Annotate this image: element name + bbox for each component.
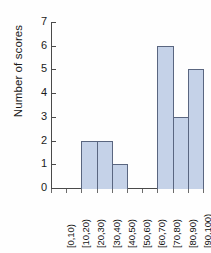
x-tick-label-5: [50,60) <box>140 188 154 248</box>
y-tick-mark <box>52 188 56 189</box>
y-tick-label: 2 <box>33 134 47 147</box>
y-tick-label: 7 <box>33 15 47 28</box>
x-tick-label-4: [40,50) <box>125 188 139 248</box>
y-tick-5: 5 <box>51 69 56 70</box>
bar-[30,40) <box>97 141 113 189</box>
x-tick-label-9: [90,100) <box>201 188 211 248</box>
x-tick-label-6: [60,70) <box>155 188 169 248</box>
y-tick-mark <box>52 22 56 23</box>
y-tick-mark <box>52 117 56 118</box>
y-tick-label: 1 <box>33 157 47 170</box>
y-tick-mark <box>52 141 56 142</box>
x-tick-label-2: [20,30) <box>94 188 108 248</box>
bar-[80,90) <box>173 117 189 189</box>
x-axis-tick-labels: [0,10)[10,20)[20,30)[30,40)[40,50)[50,60… <box>51 190 203 253</box>
bar-[70,80) <box>157 46 174 189</box>
y-tick-3: 3 <box>51 117 56 118</box>
y-tick-mark <box>52 164 56 165</box>
x-tick-label-8: [80,90) <box>186 188 200 248</box>
y-tick-mark <box>52 69 56 70</box>
x-tick-label-0: [0,10) <box>64 188 78 248</box>
y-tick-1: 1 <box>51 164 56 165</box>
x-tick-label-1: [10,20) <box>79 188 93 248</box>
y-tick-mark <box>52 93 56 94</box>
x-tick-label-3: [30,40) <box>110 188 124 248</box>
bar-[20,30) <box>81 141 98 189</box>
y-tick-label: 5 <box>33 62 47 75</box>
y-tick-label: 0 <box>33 181 47 194</box>
y-tick-label: 3 <box>33 110 47 123</box>
y-tick-mark <box>52 46 56 47</box>
bar-[40,50) <box>112 164 128 189</box>
y-tick-7: 7 <box>51 22 56 23</box>
x-tick-label-7: [70,80) <box>170 188 184 248</box>
bar-[90,100) <box>188 69 204 189</box>
histogram-figure: Number of scores 01234567 [0,10)[10,20)[… <box>0 0 211 253</box>
y-tick-2: 2 <box>51 141 56 142</box>
y-axis-title: Number of scores <box>9 1 27 141</box>
y-tick-label: 6 <box>33 39 47 52</box>
plot-area: 01234567 <box>51 22 203 188</box>
y-tick-4: 4 <box>51 93 56 94</box>
y-tick-6: 6 <box>51 46 56 47</box>
y-tick-label: 4 <box>33 86 47 99</box>
